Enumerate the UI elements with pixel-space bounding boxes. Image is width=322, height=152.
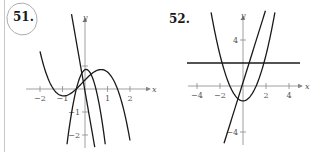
x-tick-label: 2 xyxy=(263,91,268,100)
y-tick-label: 4 xyxy=(233,36,238,45)
x-tick-label: −2 xyxy=(34,94,46,103)
x-axis-label: x xyxy=(152,85,157,94)
curve-steep-line xyxy=(72,14,95,147)
x-tick-label: 1 xyxy=(105,94,110,103)
x-tick-label: −4 xyxy=(191,91,203,100)
graph-51: x y −2−112−1−2 xyxy=(26,13,157,148)
y-axis-label: y xyxy=(82,13,88,22)
x-axis-label: x xyxy=(305,82,310,91)
y-tick-label: −2 xyxy=(68,131,80,140)
y-axis-label: y xyxy=(240,11,246,20)
x-tick-label: −2 xyxy=(214,91,226,100)
graph-52: x y −4−2244−4 xyxy=(187,11,310,145)
x-tick-label: 2 xyxy=(127,94,132,103)
x-tick-label: 4 xyxy=(286,91,291,100)
y-tick-label: −1 xyxy=(68,108,80,117)
graphs-canvas: x y −2−112−1−2 x y −4−2244−4 xyxy=(0,0,322,152)
hand-drawn-circle xyxy=(3,0,40,38)
